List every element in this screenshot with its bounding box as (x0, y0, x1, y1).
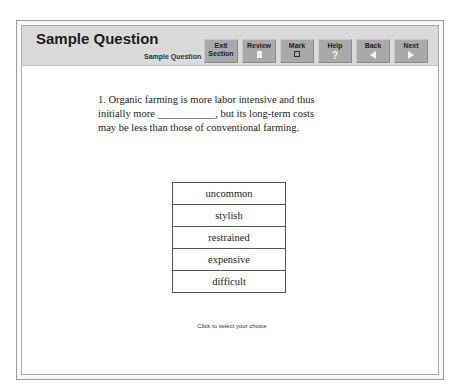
choice-stylish[interactable]: stylish (173, 205, 285, 227)
arrow-right-icon (408, 51, 414, 59)
next-button[interactable]: Next (394, 39, 428, 63)
question-icon: ? (319, 51, 351, 60)
page-title: Sample Question (36, 30, 159, 47)
section-subtitle: Sample Question (144, 53, 201, 60)
question-line-2: initially more ___________, but its long… (98, 107, 378, 121)
question-line-1: 1. Organic farming is more labor intensi… (98, 93, 378, 107)
question-text: 1. Organic farming is more labor intensi… (98, 93, 378, 135)
choice-difficult[interactable]: difficult (173, 271, 285, 292)
mark-label: Mark (281, 42, 313, 50)
back-label: Back (357, 42, 389, 50)
next-label: Next (395, 42, 427, 50)
header-bar: Sample Question Sample Question Exit Sec… (22, 26, 438, 66)
checkbox-icon (294, 51, 300, 57)
answer-choices: uncommon stylish restrained expensive di… (172, 182, 286, 293)
arrow-left-icon (370, 51, 376, 59)
page-icon (257, 51, 262, 58)
help-label: Help (319, 42, 351, 50)
exit-section-button[interactable]: Exit Section (204, 39, 238, 63)
question-line-3: may be less than those of conventional f… (98, 121, 378, 135)
exit-label-line1: Exit (205, 42, 237, 50)
review-button[interactable]: Review (242, 39, 276, 63)
exit-label-line2: Section (205, 50, 237, 58)
choice-uncommon[interactable]: uncommon (173, 183, 285, 205)
help-button[interactable]: Help ? (318, 39, 352, 63)
review-label: Review (243, 42, 275, 50)
mark-button[interactable]: Mark (280, 39, 314, 63)
instruction-hint: Click to select your choice (0, 323, 464, 329)
choice-restrained[interactable]: restrained (173, 227, 285, 249)
choice-expensive[interactable]: expensive (173, 249, 285, 271)
back-button[interactable]: Back (356, 39, 390, 63)
